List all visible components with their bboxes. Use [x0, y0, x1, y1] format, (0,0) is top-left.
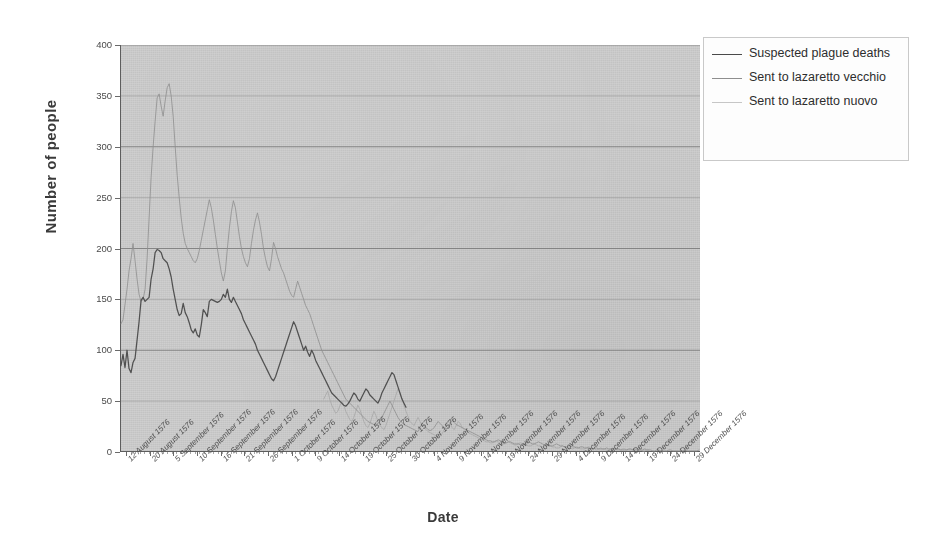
- x-minor-tick-mark: [662, 452, 663, 454]
- x-minor-tick-mark: [213, 452, 214, 454]
- x-minor-tick-mark: [323, 452, 324, 454]
- x-minor-tick-mark: [676, 452, 677, 454]
- x-minor-tick-mark: [456, 452, 457, 454]
- x-minor-tick-mark: [199, 452, 200, 454]
- x-minor-tick-mark: [451, 452, 452, 454]
- y-tick-mark: [115, 198, 120, 199]
- x-tick-mark: [457, 452, 458, 456]
- y-tick-mark: [115, 147, 120, 148]
- x-minor-tick-mark: [158, 452, 159, 454]
- x-minor-tick-mark: [543, 452, 544, 454]
- x-minor-tick-mark: [483, 452, 484, 454]
- x-minor-tick-mark: [227, 452, 228, 454]
- y-tick-label: 200: [78, 243, 112, 254]
- x-minor-tick-mark: [534, 452, 535, 454]
- x-minor-tick-mark: [250, 452, 251, 454]
- x-minor-tick-mark: [689, 452, 690, 454]
- x-minor-tick-mark: [405, 452, 406, 454]
- x-axis-title: Date: [383, 509, 503, 525]
- x-minor-tick-mark: [131, 452, 132, 454]
- x-minor-tick-mark: [222, 452, 223, 454]
- x-minor-tick-mark: [575, 452, 576, 454]
- x-minor-tick-mark: [657, 452, 658, 454]
- x-minor-tick-mark: [126, 452, 127, 454]
- x-minor-tick-mark: [538, 452, 539, 454]
- y-tick-mark: [115, 401, 120, 402]
- x-minor-tick-mark: [273, 452, 274, 454]
- x-minor-tick-mark: [648, 452, 649, 454]
- x-minor-tick-mark: [557, 452, 558, 454]
- x-minor-tick-mark: [373, 452, 374, 454]
- x-minor-tick-mark: [511, 452, 512, 454]
- legend-line-swatch-0: [712, 49, 742, 61]
- y-tick-label: 0: [78, 446, 112, 457]
- x-minor-tick-mark: [355, 452, 356, 454]
- x-minor-tick-mark: [447, 452, 448, 454]
- y-tick-mark: [115, 45, 120, 46]
- x-minor-tick-mark: [639, 452, 640, 454]
- x-minor-tick-mark: [667, 452, 668, 454]
- y-tick-mark: [115, 299, 120, 300]
- x-minor-tick-mark: [644, 452, 645, 454]
- x-minor-tick-mark: [584, 452, 585, 454]
- legend-item[interactable]: Sent to lazaretto vecchio: [712, 70, 902, 85]
- x-minor-tick-mark: [167, 452, 168, 454]
- x-minor-tick-mark: [625, 452, 626, 454]
- x-minor-tick-mark: [245, 452, 246, 454]
- legend-item[interactable]: Sent to lazaretto nuovo: [712, 94, 902, 109]
- x-tick-mark: [197, 452, 198, 456]
- x-tick-mark: [173, 452, 174, 456]
- series-line: [121, 250, 406, 408]
- x-minor-tick-mark: [204, 452, 205, 454]
- x-minor-tick-mark: [566, 452, 567, 454]
- x-minor-tick-mark: [195, 452, 196, 454]
- y-tick-label: 300: [78, 141, 112, 152]
- x-minor-tick-mark: [479, 452, 480, 454]
- x-minor-tick-mark: [433, 452, 434, 454]
- x-minor-tick-mark: [497, 452, 498, 454]
- x-minor-tick-mark: [341, 452, 342, 454]
- x-minor-tick-mark: [378, 452, 379, 454]
- x-minor-tick-mark: [492, 452, 493, 454]
- x-minor-tick-mark: [346, 452, 347, 454]
- x-minor-tick-mark: [552, 452, 553, 454]
- x-minor-tick-mark: [295, 452, 296, 454]
- x-minor-tick-mark: [328, 452, 329, 454]
- y-axis-title: Number of people: [42, 57, 59, 277]
- y-tick-label: 150: [78, 293, 112, 304]
- y-tick-mark: [115, 249, 120, 250]
- x-minor-tick-mark: [305, 452, 306, 454]
- x-minor-tick-mark: [314, 452, 315, 454]
- x-minor-tick-mark: [671, 452, 672, 454]
- legend-line-swatch-2: [712, 97, 742, 109]
- plot-area: [120, 45, 700, 452]
- y-tick-mark: [115, 96, 120, 97]
- x-minor-tick-mark: [694, 452, 695, 454]
- x-minor-tick-mark: [263, 452, 264, 454]
- legend-item[interactable]: Suspected plague deaths: [712, 46, 902, 61]
- x-minor-tick-mark: [241, 452, 242, 454]
- x-minor-tick-mark: [401, 452, 402, 454]
- x-minor-tick-mark: [332, 452, 333, 454]
- y-tick-mark: [115, 350, 120, 351]
- x-tick-mark: [315, 452, 316, 456]
- series-line: [121, 84, 699, 451]
- chart-legend: Suspected plague deaths Sent to lazarett…: [703, 37, 909, 161]
- y-tick-label: 250: [78, 192, 112, 203]
- x-minor-tick-mark: [140, 452, 141, 454]
- x-minor-tick-mark: [474, 452, 475, 454]
- chart-svg: [120, 45, 700, 452]
- chart-figure: Number of people 05010015020025030035040…: [0, 0, 932, 557]
- x-minor-tick-mark: [318, 452, 319, 454]
- x-minor-tick-mark: [218, 452, 219, 454]
- x-minor-tick-mark: [396, 452, 397, 454]
- x-minor-tick-mark: [616, 452, 617, 454]
- x-minor-tick-mark: [176, 452, 177, 454]
- x-tick-mark: [339, 452, 340, 456]
- x-minor-tick-mark: [350, 452, 351, 454]
- x-minor-tick-mark: [172, 452, 173, 454]
- x-minor-tick-mark: [181, 452, 182, 454]
- y-tick-label: 50: [78, 395, 112, 406]
- x-minor-tick-mark: [488, 452, 489, 454]
- x-minor-tick-mark: [208, 452, 209, 454]
